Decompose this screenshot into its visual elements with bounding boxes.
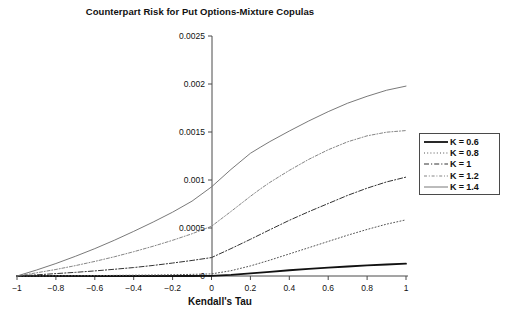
y-tick-label: 0.0005 [150,223,205,233]
legend-line-swatch [423,159,449,169]
legend-line-swatch [423,148,449,158]
legend-line-swatch [423,171,449,181]
legend-item-4[interactable]: K = 1.2 [420,170,499,181]
legend-line-swatch [423,137,449,147]
chart-figure: Counterpart Risk for Put Options-Mixture… [0,0,510,320]
y-tick-label: 0.002 [150,79,205,89]
x-tick-label: 0.8 [361,283,373,293]
x-tick-label: 1 [404,283,409,293]
x-tick-label: −0.8 [48,283,65,293]
x-axis-label: Kendall's Tau [130,296,310,307]
x-tick-label: −1 [12,283,22,293]
legend-item-label: K = 1 [450,159,471,169]
x-tick-label: 0.2 [244,283,256,293]
y-tick-label: 0.0025 [150,31,205,41]
y-tick-label: 0.0015 [150,127,205,137]
legend-item-label: K = 0.6 [450,137,479,147]
legend-item-label: K = 1.4 [450,182,479,192]
x-tick-label: −0.6 [86,283,103,293]
legend-line-swatch [423,182,449,192]
x-tick-label: 0.4 [283,283,295,293]
x-tick-label: 0.6 [322,283,334,293]
legend-item-5[interactable]: K = 1.4 [420,182,499,193]
y-tick-label: 0.001 [150,175,205,185]
x-tick-label: −0.4 [125,283,142,293]
legend-item-2[interactable]: K = 0.8 [420,147,499,158]
x-tick-label: −0.2 [164,283,181,293]
legend-item-1[interactable]: K = 0.6 [420,136,499,147]
legend-item-label: K = 1.2 [450,171,479,181]
y-tick-label: 0 [150,271,205,281]
legend-item-label: K = 0.8 [450,148,479,158]
chart-legend: K = 0.6K = 0.8K = 1K = 1.2K = 1.4 [419,133,500,195]
x-tick-label: 0 [209,283,214,293]
legend-item-3[interactable]: K = 1 [420,159,499,170]
